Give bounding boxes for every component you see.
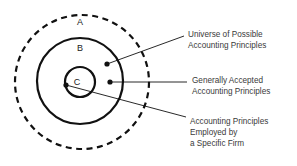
venn-diagram: A B C Universe of Possible Accounting Pr…: [0, 0, 297, 166]
callout-universe-line-2: Accounting Principles: [188, 41, 266, 50]
callout-dot-gaap: [107, 79, 112, 84]
callout-gaap-line-1: Generally Accepted: [192, 76, 263, 85]
callout-dot-universe: [104, 61, 109, 66]
callout-firm-line-2: Employed by: [190, 128, 238, 137]
ring-b-label: B: [77, 43, 83, 53]
diagram-canvas: A B C Universe of Possible Accounting Pr…: [0, 0, 297, 166]
callout-gaap-line-2: Accounting Principles: [192, 87, 270, 96]
ring-a-label: A: [77, 17, 83, 27]
leader-line-firm: [66, 85, 186, 117]
ring-c-label: C: [74, 77, 81, 87]
leader-line-universe: [107, 36, 184, 64]
callout-universe-line-1: Universe of Possible: [188, 30, 263, 39]
callout-dot-firm: [63, 82, 68, 87]
callout-firm-line-1: Accounting Principles: [190, 117, 268, 126]
callout-firm-line-3: a Specific Firm: [190, 139, 244, 148]
